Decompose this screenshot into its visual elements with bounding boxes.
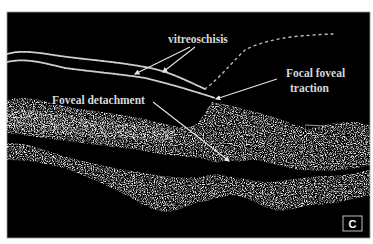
- label-focal-foveal-traction-line2: traction: [290, 82, 330, 94]
- label-foveal-detachment: Foveal detachment: [52, 94, 145, 106]
- label-focal-foveal-traction-line1: Focal foveal: [286, 67, 345, 79]
- panel-label: C: [349, 218, 357, 230]
- oct-figure: vitreoschisis Focal foveal traction Fove…: [0, 0, 373, 244]
- label-vitreoschisis: vitreoschisis: [168, 33, 228, 45]
